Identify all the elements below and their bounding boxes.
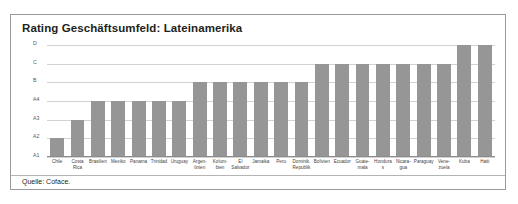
bar-honduras (376, 64, 390, 157)
footer-divider (11, 175, 505, 176)
bar-dominik-republik (295, 82, 309, 157)
bar-jamaika (254, 82, 268, 157)
bar-venezuela (437, 64, 451, 157)
bar-costa-rica (71, 120, 85, 157)
bar-slot (210, 45, 230, 157)
x-axis-label-kolumbien: Kolum-bien (210, 159, 230, 170)
bar-chile (50, 138, 64, 157)
x-axis-label-chile: Chile (47, 159, 67, 170)
bar-kolumbien (213, 82, 227, 157)
bar-slot (128, 45, 148, 157)
x-axis-label-bolivien: Bolivien (312, 159, 332, 170)
bar-series (47, 45, 495, 157)
bar-slot (393, 45, 413, 157)
bar-slot (475, 45, 495, 157)
y-tick-label-a1: A1 (33, 152, 45, 158)
x-axis-label-venezuela: Vene-zuela (434, 159, 454, 170)
x-axis-label-nicaragua: Nicara-gua (393, 159, 413, 170)
bar-slot (108, 45, 128, 157)
axis-baseline (47, 156, 495, 157)
x-axis-label-guatemala: Guate-mala (352, 159, 372, 170)
bar-slot (413, 45, 433, 157)
x-axis-label-kuba: Kuba (454, 159, 474, 170)
bar-slot (454, 45, 474, 157)
bar-slot (373, 45, 393, 157)
x-axis-label-argentinien: Argen-tinien (190, 159, 210, 170)
bar-slot (88, 45, 108, 157)
x-axis-label-el-salvador: ElSalvador (230, 159, 250, 170)
y-tick-label-c: C (33, 59, 45, 65)
bar-slot (332, 45, 352, 157)
bar-peru (274, 82, 288, 157)
bar-haiti (478, 45, 492, 157)
bar-ecuador (335, 64, 349, 157)
bar-slot (230, 45, 250, 157)
y-tick-label-b: B (33, 77, 45, 83)
bar-slot (312, 45, 332, 157)
bar-mexiko (111, 101, 125, 157)
bar-kuba (457, 45, 471, 157)
bar-slot (67, 45, 87, 157)
bar-panama (132, 101, 146, 157)
x-axis-label-trinidad: Trinidad (149, 159, 169, 170)
x-axis-label-costa-rica: CostaRica (67, 159, 87, 170)
chart-plot-area: A1A2A3A4BCD (33, 45, 495, 157)
bar-guatemala (356, 64, 370, 157)
bar-slot (149, 45, 169, 157)
bar-argentinien (193, 82, 207, 157)
x-axis-label-paraguay: Paraguay (413, 159, 433, 170)
x-axis-label-jamaika: Jamaika (251, 159, 271, 170)
bar-uruguay (172, 101, 186, 157)
bar-bolivien (315, 64, 329, 157)
bar-paraguay (417, 64, 431, 157)
y-tick-label-a2: A2 (33, 133, 45, 139)
bar-slot (169, 45, 189, 157)
y-tick-label-a3: A3 (33, 115, 45, 121)
x-axis-label-ecuador: Ecuador (332, 159, 352, 170)
x-axis-label-peru: Peru (271, 159, 291, 170)
chart-panel: Rating Geschäftsumfeld: Lateinamerika A1… (10, 14, 506, 190)
bar-slot (434, 45, 454, 157)
x-axis-labels: ChileCostaRicaBrasilienMexikoPanamaTrini… (47, 159, 495, 170)
bar-nicaragua (396, 64, 410, 157)
x-axis-label-mexiko: Mexiko (108, 159, 128, 170)
bar-slot (251, 45, 271, 157)
x-axis-label-dominik-republik: Dominik.Republik (291, 159, 311, 170)
bar-slot (190, 45, 210, 157)
x-axis-label-brasilien: Brasilien (88, 159, 108, 170)
page-title: Rating Geschäftsumfeld: Lateinamerika (22, 22, 242, 34)
bar-brasilien (91, 101, 105, 157)
bar-slot (47, 45, 67, 157)
bar-slot (352, 45, 372, 157)
source-note: Quelle: Coface. (22, 178, 70, 185)
x-axis-label-honduras: Honduras (373, 159, 393, 170)
bar-el-salvador (233, 82, 247, 157)
y-tick-label-a4: A4 (33, 96, 45, 102)
bar-slot (291, 45, 311, 157)
y-tick-label-d: D (33, 40, 45, 46)
gridline-a1 (47, 157, 495, 158)
bar-trinidad (152, 101, 166, 157)
bar-slot (271, 45, 291, 157)
x-axis-label-uruguay: Uruguay (169, 159, 189, 170)
x-axis-label-haiti: Haiti (475, 159, 495, 170)
x-axis-label-panama: Panama (128, 159, 148, 170)
